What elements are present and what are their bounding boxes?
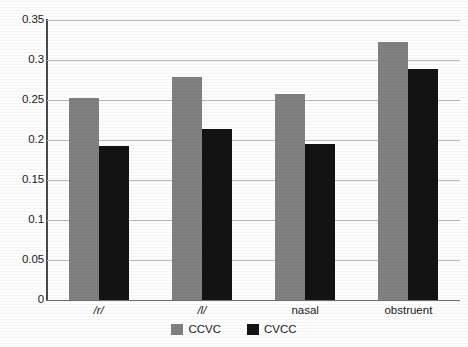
y-axis-tick-label: 0.25: [2, 94, 44, 106]
x-axis-tick-label: /r/: [47, 303, 150, 317]
bar-group: [150, 20, 253, 300]
legend-label: CCVC: [188, 324, 221, 336]
x-axis-tick-label: /l/: [150, 303, 253, 317]
bar-cvcc-nasal: [305, 144, 335, 300]
legend-swatch-icon: [171, 324, 183, 335]
x-axis-tick-label: nasal: [254, 303, 357, 317]
bar-chart: 00.050.10.150.20.250.30.35 /r//l/nasalob…: [0, 0, 468, 347]
bar-group: [254, 20, 357, 300]
legend-item-cvcc[interactable]: CVCC: [247, 324, 297, 336]
bar-cvcc-l: [202, 129, 232, 300]
legend-swatch-icon: [247, 324, 259, 335]
y-axis-tick-label: 0.2: [2, 134, 44, 146]
y-axis-tick-label: 0.15: [2, 174, 44, 186]
bar-ccvc-obstruent: [378, 42, 408, 300]
bar-ccvc-nasal: [275, 94, 305, 300]
bar-group: [47, 20, 150, 300]
x-axis-tick-label: obstruent: [357, 303, 460, 317]
bar-cvcc-r: [99, 146, 129, 300]
legend-label: CVCC: [264, 324, 297, 336]
chart-legend: CCVCCVCC: [0, 324, 468, 336]
y-axis-tick-label: 0.3: [2, 54, 44, 66]
y-axis-tick-label: 0.35: [2, 14, 44, 26]
y-axis-tick-label: 0.1: [2, 214, 44, 226]
plot-area: [47, 20, 460, 300]
y-axis-tick-labels: 00.050.10.150.20.250.30.35: [0, 0, 44, 347]
bar-group: [357, 20, 460, 300]
bar-ccvc-r: [69, 98, 99, 300]
x-axis-tick-labels: /r//l/nasalobstruent: [47, 303, 460, 323]
y-axis-tick-label: 0: [2, 294, 44, 306]
legend-item-ccvc[interactable]: CCVC: [171, 324, 221, 336]
axis-baseline: [47, 300, 460, 301]
bar-cvcc-obstruent: [408, 69, 438, 300]
y-axis-tick-label: 0.05: [2, 254, 44, 266]
bar-ccvc-l: [172, 77, 202, 300]
